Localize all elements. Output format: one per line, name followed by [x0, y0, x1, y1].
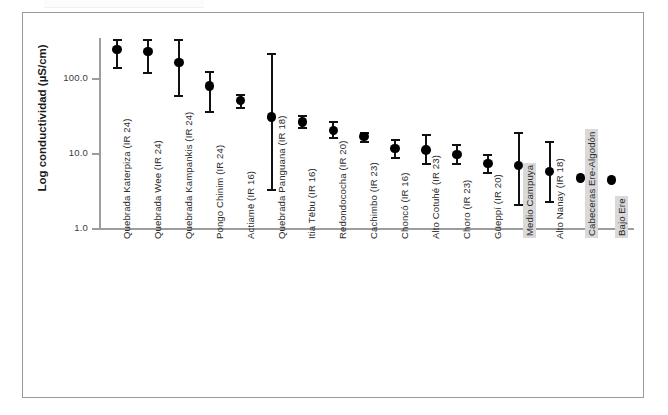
x-axis-label: Alto Cotuhé (IR 23) — [430, 155, 441, 239]
x-axis-label: Quebrada Panguana (IR 18) — [276, 115, 287, 239]
data-point-marker — [112, 45, 122, 55]
error-bar-cap-top — [267, 53, 276, 55]
error-bar-cap-bottom — [205, 111, 214, 113]
x-axis-label: Pongo Chinim (IR 24) — [214, 145, 225, 239]
error-bar-cap-top — [143, 39, 152, 41]
error-bar-cap-top — [205, 71, 214, 73]
data-point-marker — [143, 47, 153, 57]
error-bar-cap-bottom — [113, 67, 122, 69]
y-axis-title: Log conductividad (µS/cm) — [36, 28, 48, 208]
data-point-marker — [483, 159, 493, 169]
error-bar-cap-bottom — [514, 204, 523, 206]
x-axis-label: Choro (IR 23) — [461, 180, 472, 239]
y-tick-label-10: 10.0 — [42, 147, 88, 158]
error-bar-cap-bottom — [545, 201, 554, 203]
x-axis-label: Bajo Ere — [615, 196, 628, 238]
x-axis-label: Actiamë (IR 16) — [245, 171, 256, 239]
error-bar-cap-bottom — [143, 72, 152, 74]
data-point-marker — [576, 173, 586, 183]
error-bar-cap-bottom — [452, 163, 461, 165]
error-bar-cap-bottom — [329, 137, 338, 139]
error-bar-cap-top — [329, 121, 338, 123]
error-bar-cap-top — [514, 132, 523, 134]
y-tick-mark-100 — [92, 78, 99, 80]
y-tick-label-1: 1.0 — [42, 222, 88, 233]
x-axis-label: Medio Campuya — [523, 163, 536, 238]
error-bar-cap-top — [174, 39, 183, 41]
data-point-marker — [452, 150, 462, 160]
x-axis-label: Alto Nanay (IR 18) — [554, 158, 565, 239]
data-point-marker — [607, 175, 617, 185]
y-axis-line — [99, 38, 101, 230]
error-bar-cap-top — [113, 39, 122, 41]
data-point-marker — [298, 117, 308, 127]
x-axis-label: Itia Tëbu (IR 16) — [306, 168, 317, 239]
data-point-marker — [174, 58, 184, 68]
y-tick-label-100: 100.0 — [42, 72, 88, 83]
error-bar-cap-bottom — [236, 107, 245, 109]
y-tick-mark-10 — [92, 153, 99, 155]
error-bar-cap-bottom — [267, 189, 276, 191]
x-axis-label: Güeppí (IR 20) — [492, 174, 503, 239]
x-axis-label: Quebrada Wee (IR 24) — [152, 140, 163, 239]
x-axis-label: Redondococha (IR 20) — [337, 140, 348, 239]
data-point-marker — [421, 145, 431, 155]
data-point-marker — [205, 81, 215, 91]
data-point-marker — [329, 126, 339, 136]
x-axis-label: Cabeceras Ere-Algodón — [585, 130, 598, 239]
x-axis-label: Choncó (IR 16) — [399, 173, 410, 239]
error-bar-line — [209, 71, 211, 112]
y-tick-mark-1 — [92, 228, 99, 230]
x-axis-label: Cachimbo (IR 23) — [368, 162, 379, 239]
error-bar-cap-top — [545, 141, 554, 143]
data-point-marker — [390, 144, 400, 154]
data-point-marker — [267, 112, 277, 122]
plot-area: Log conductividad (µS/cm) 100.0 10.0 1.0… — [0, 0, 668, 415]
error-bar-cap-top — [483, 154, 492, 156]
error-bar-cap-bottom — [483, 172, 492, 174]
x-axis-label: Quebrada Katerpiza (IR 24) — [121, 119, 132, 239]
error-bar-cap-top — [422, 134, 431, 136]
data-point-marker — [545, 167, 555, 177]
error-bar-cap-top — [452, 144, 461, 146]
error-bar-cap-top — [391, 139, 400, 141]
x-axis-label: Quebrada Kampankis (IR 24) — [183, 112, 194, 239]
error-bar-cap-bottom — [174, 95, 183, 97]
data-point-marker — [236, 96, 246, 106]
error-bar-cap-bottom — [391, 157, 400, 159]
error-bar-cap-bottom — [298, 127, 307, 129]
error-bar-cap-bottom — [360, 141, 369, 143]
